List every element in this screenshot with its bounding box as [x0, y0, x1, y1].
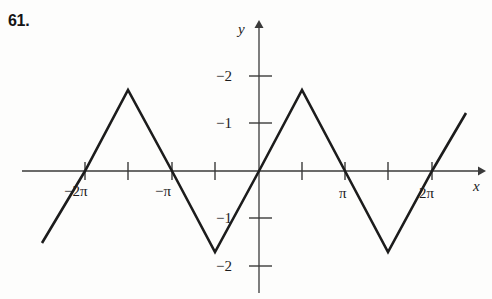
figure-container: 61. −2π −π π 2π: [0, 0, 492, 299]
y-tick-label-2: −2: [216, 68, 232, 84]
x-tick-label-pi: π: [339, 185, 347, 201]
y-axis-arrow-icon: [255, 20, 264, 28]
x-tick-label-2pi: 2π: [419, 185, 435, 201]
y-tick-label-1: −1: [216, 115, 232, 131]
x-tick-label-neg-pi: −π: [155, 183, 171, 199]
x-axis-arrow-icon: [478, 167, 486, 176]
x-axis-label: x: [472, 178, 480, 194]
y-axis-label: y: [236, 21, 245, 37]
y-tick-label-neg-2: −2: [216, 258, 232, 274]
y-tick-label-neg-1: −1: [216, 210, 232, 226]
plot-canvas: −2π −π π 2π −2 −1 −1 −2 y x: [0, 0, 492, 299]
x-tick-label-neg-2pi: −2π: [64, 183, 88, 199]
